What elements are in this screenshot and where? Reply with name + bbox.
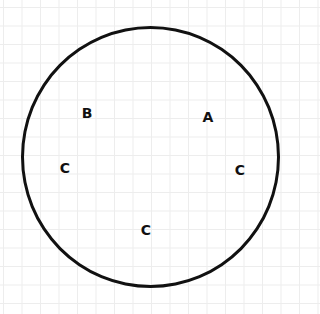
label-c-right: C xyxy=(235,163,245,177)
diagram-canvas: B A C C C xyxy=(0,0,293,314)
label-b: B xyxy=(82,106,93,120)
circle-outline xyxy=(21,26,280,288)
label-c-bottom: C xyxy=(141,223,151,237)
label-a: A xyxy=(203,110,214,124)
label-c-left: C xyxy=(60,161,70,175)
